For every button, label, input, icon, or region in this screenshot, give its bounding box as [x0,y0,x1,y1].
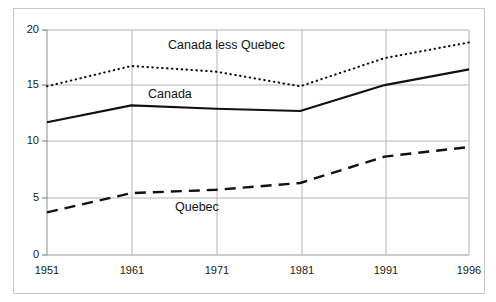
series-label-canada-less-quebec: Canada less Quebec [168,39,285,52]
x-tick-label-1996: 1996 [444,265,494,276]
x-tick-label-1971: 1971 [192,265,242,276]
x-tick-label-1981: 1981 [277,265,327,276]
y-tick-label-10: 10 [19,135,39,146]
y-tick-label-5: 5 [19,192,39,203]
x-tick-label-1951: 1951 [22,265,72,276]
y-axis-ticks [42,30,47,255]
horizontal-gridlines [47,30,469,255]
y-tick-label-20: 20 [19,24,39,35]
series-label-canada: Canada [148,88,192,101]
chart-figure: 20 15 10 5 0 1951 1961 1971 1981 1991 19… [0,0,496,302]
series-label-quebec: Quebec [175,201,219,214]
series-line-canada [47,69,469,122]
x-tick-label-1961: 1961 [107,265,157,276]
y-tick-label-0: 0 [19,249,39,260]
vertical-gridlines [47,30,469,255]
series-line-quebec [47,147,469,212]
y-tick-label-15: 15 [19,79,39,90]
x-tick-label-1991: 1991 [361,265,411,276]
